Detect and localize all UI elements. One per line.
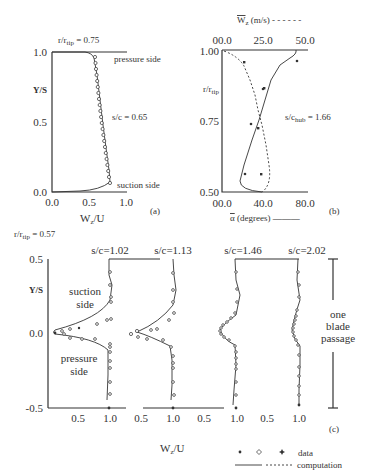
panel-c-ylabel: Y/S xyxy=(29,285,43,295)
panel-b-top-axis-label: Wz (m/s) - - - - - - xyxy=(237,15,301,27)
panel-b-wz-curve xyxy=(224,51,270,192)
panel-c-xtick: 0.5 xyxy=(197,412,211,424)
panel-a-suction-side-label: suction side xyxy=(117,180,160,190)
panel-a-xtick-0: 0.0 xyxy=(45,196,59,208)
panel-c-xtick: 0.5 xyxy=(134,412,148,424)
panel-c-ytick-0: 0.0 xyxy=(29,327,43,339)
panel-c-subplot-2-data xyxy=(129,272,175,410)
panel-c-pressure-label-1: pressure xyxy=(61,352,98,364)
panel-b-bottom-xtick-80: 80.0 xyxy=(295,197,315,209)
panel-c-title: r/rtip = 0.57 xyxy=(14,229,56,241)
panel-b-bottom-xtick-40: 40.0 xyxy=(253,197,273,209)
panel-a-xlabel: Wz/U xyxy=(80,212,105,226)
panel-c-xtick: 0.5 xyxy=(260,412,274,424)
legend-star-icon xyxy=(279,449,285,455)
panel-a-ylabel: Y/S xyxy=(33,85,47,95)
panel-c: r/rtip = 0.57 s/c=1.02 s/c=1.13 s/c=1.46… xyxy=(14,229,355,456)
panel-a-pressure-side-label: pressure side xyxy=(114,54,161,64)
panel-c-xtick: 1.0 xyxy=(292,412,306,424)
panel-c-ytick-m05: -0.5 xyxy=(26,402,44,414)
panel-c-xtick: 1.0 xyxy=(103,412,117,424)
panel-c-subplot-4-title: s/c=2.02 xyxy=(288,244,326,256)
panel-c-subplot-1-title: s/c=1.02 xyxy=(91,244,129,256)
panel-c-subplot-3-title: s/c=1.46 xyxy=(224,244,262,256)
panel-a-axes xyxy=(52,52,127,192)
legend-data-label: data xyxy=(298,448,313,458)
panel-b-ylabel: r/rtip xyxy=(203,84,219,96)
panel-b-sc-label: s/chub = 1.66 xyxy=(285,112,331,124)
panel-c-xtick: 0.5 xyxy=(71,412,85,424)
panel-b-ytick-100: 1.00 xyxy=(200,45,220,57)
panel-c-suction-label-2: side xyxy=(76,298,94,310)
panel-a-xtick-1: 1.0 xyxy=(119,196,133,208)
passage-label-3: passage xyxy=(321,332,355,344)
figure: r/rtip = 0.75 1.0 Y/S 0.5 0.0 0.0 0.5 1.… xyxy=(0,0,365,476)
panel-c-pressure-label-2: side xyxy=(70,365,88,377)
panel-c-xtick: 1.0 xyxy=(230,412,244,424)
legend-filled-circle-icon xyxy=(239,451,242,454)
panel-b-label: (b) xyxy=(329,206,340,216)
panel-b-top-xtick-50: 50.0 xyxy=(295,34,315,46)
panel-a-ytick-1: 1.0 xyxy=(33,46,47,58)
panel-a-xtick-05: 0.5 xyxy=(82,196,96,208)
panel-c-subplot-2-title: s/c=1.13 xyxy=(154,244,192,256)
legend: data computation xyxy=(235,448,342,470)
panel-b-bottom-axis-label: α (degrees) ——— xyxy=(230,213,301,223)
panel-a-title: r/rtip = 0.75 xyxy=(58,35,100,47)
panel-a: r/rtip = 0.75 1.0 Y/S 0.5 0.0 0.0 0.5 1.… xyxy=(33,35,161,226)
passage-label-2: blade xyxy=(326,320,350,332)
panel-a-ytick-05: 0.5 xyxy=(33,116,47,128)
panel-c-label: (c) xyxy=(329,424,339,434)
panel-b-bottom-xtick-0: 00.0 xyxy=(212,197,232,209)
legend-computation-label: computation xyxy=(297,460,342,470)
panel-c-xlabel: Wz/U xyxy=(160,442,185,456)
panel-c-xtick: 1.0 xyxy=(166,412,180,424)
panel-c-ytick-05: 0.5 xyxy=(29,253,43,265)
panel-b-ytick-075: 0.75 xyxy=(200,115,220,127)
panel-a-label: (a) xyxy=(150,206,160,216)
panel-a-sc-label: s/c = 0.65 xyxy=(112,112,148,122)
panel-b-top-xtick-25: 25.0 xyxy=(253,34,273,46)
panel-c-suction-label-1: suction xyxy=(69,285,101,297)
panel-c-subplot-3-data xyxy=(219,271,239,410)
passage-label-1: one xyxy=(330,308,346,320)
legend-diamond-icon xyxy=(257,450,262,455)
panel-b: Wz (m/s) - - - - - - 00.0 25.0 50.0 1.00… xyxy=(200,15,340,223)
